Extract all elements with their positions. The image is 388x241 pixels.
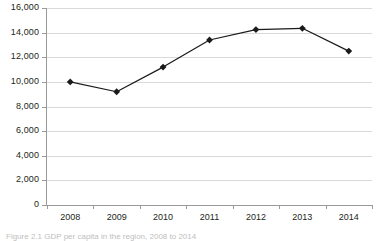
x-axis-tick-label: 2014: [319, 212, 379, 222]
y-axis-tick-label: 4,000: [0, 151, 39, 160]
x-axis-tick-mark: [93, 205, 94, 209]
y-axis-tick-label: 12,000: [0, 52, 39, 61]
plot-area: [47, 8, 372, 205]
y-axis-tick-label: 10,000: [0, 77, 39, 86]
y-axis-tick-label: 2,000: [0, 175, 39, 184]
data-point-marker: [160, 64, 167, 71]
x-axis-tick-mark: [326, 205, 327, 209]
data-point-marker: [67, 78, 74, 85]
data-point-marker: [206, 37, 213, 44]
x-axis-tick-mark: [140, 205, 141, 209]
y-axis-tick-label: 8,000: [0, 102, 39, 111]
x-axis-tick-mark: [279, 205, 280, 209]
data-point-marker: [299, 25, 306, 32]
data-point-marker: [113, 88, 120, 95]
x-axis-tick-mark: [372, 205, 373, 209]
y-axis-tick-label: 6,000: [0, 126, 39, 135]
x-axis-tick-mark: [186, 205, 187, 209]
y-axis-tick-label: 16,000: [0, 3, 39, 12]
x-axis-tick-mark: [47, 205, 48, 209]
data-point-marker: [253, 26, 260, 33]
figure-caption: Figure 2.1 GDP per capita in the region,…: [6, 232, 382, 241]
data-point-marker: [345, 48, 352, 55]
y-axis-tick-label: 0: [0, 200, 39, 209]
x-axis-tick-mark: [233, 205, 234, 209]
x-axis-line: [46, 205, 372, 206]
y-axis-tick-label: 14,000: [0, 28, 39, 37]
data-series-line: [47, 8, 372, 205]
